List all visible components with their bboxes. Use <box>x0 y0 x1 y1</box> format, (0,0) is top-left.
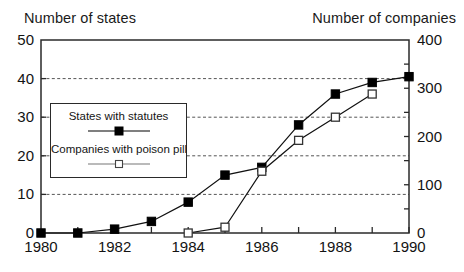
plot-area: 01020304050 0100200300400 19801982198419… <box>41 40 409 233</box>
legend-marker-states-filled-square-icon <box>51 123 186 141</box>
left-axis-tick-20: 20 <box>17 147 34 164</box>
left-axis-tick-40: 40 <box>17 70 34 87</box>
left-axis-tick-50: 50 <box>17 31 34 48</box>
left-axis-title: Number of states <box>24 10 136 26</box>
x-axis-tick-1980: 1980 <box>24 238 57 255</box>
right-axis-tick-100: 100 <box>417 176 442 193</box>
legend-entry-companies: Companies with poison pill <box>51 143 186 174</box>
legend-entry-states: States with statutes <box>51 110 186 141</box>
right-axis-tick-400: 400 <box>417 31 442 48</box>
right-axis-tick-300: 300 <box>417 79 442 96</box>
x-axis-tick-1984: 1984 <box>172 238 205 255</box>
chart-figure: Number of states Number of companies 010… <box>0 0 464 272</box>
legend-label-states: States with statutes <box>51 110 186 122</box>
x-axis-tick-1986: 1986 <box>245 238 278 255</box>
right-axis-tick-200: 200 <box>417 128 442 145</box>
legend-marker-companies-open-square-icon <box>51 156 186 174</box>
left-axis-tick-30: 30 <box>17 108 34 125</box>
x-axis-tick-1990: 1990 <box>392 238 425 255</box>
right-axis-title: Number of companies <box>312 10 456 26</box>
legend-label-companies: Companies with poison pill <box>51 143 186 155</box>
left-axis-tick-10: 10 <box>17 185 34 202</box>
x-axis-tick-1988: 1988 <box>319 238 352 255</box>
x-axis-tick-1982: 1982 <box>98 238 131 255</box>
chart-legend: States with statutes Companies with pois… <box>50 103 187 178</box>
